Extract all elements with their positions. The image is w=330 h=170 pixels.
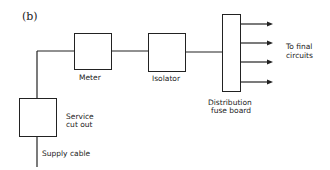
service-cutout-label-line2: cut out xyxy=(66,121,92,130)
isolator-label: Isolator xyxy=(152,75,180,84)
distribution-fuse-board-box xyxy=(222,14,241,92)
meter-label: Meter xyxy=(79,74,101,83)
meter-box xyxy=(74,33,112,70)
final-circuits-label-line2: circuits xyxy=(286,52,313,61)
connection-lines xyxy=(0,0,330,170)
arrowhead-icons xyxy=(267,22,273,85)
isolator-box xyxy=(148,33,186,72)
supply-cable-label: Supply cable xyxy=(42,150,90,159)
distribution-label-line2: fuse board xyxy=(211,107,251,116)
service-cutout-box xyxy=(19,98,57,137)
